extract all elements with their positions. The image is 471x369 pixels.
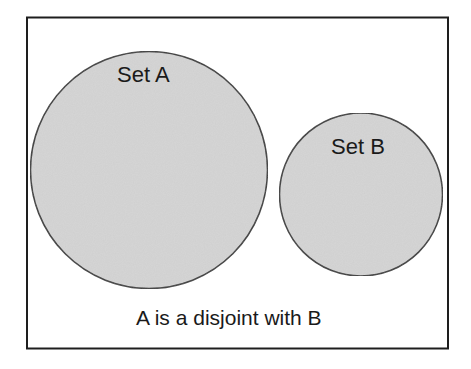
diagram-caption: A is a disjoint with B: [136, 306, 322, 329]
set-a-circle: [31, 52, 268, 289]
set-b-label: Set B: [331, 134, 385, 159]
venn-diagram: Set A Set B A is a disjoint with B: [0, 0, 471, 369]
set-a-label: Set A: [117, 62, 170, 87]
